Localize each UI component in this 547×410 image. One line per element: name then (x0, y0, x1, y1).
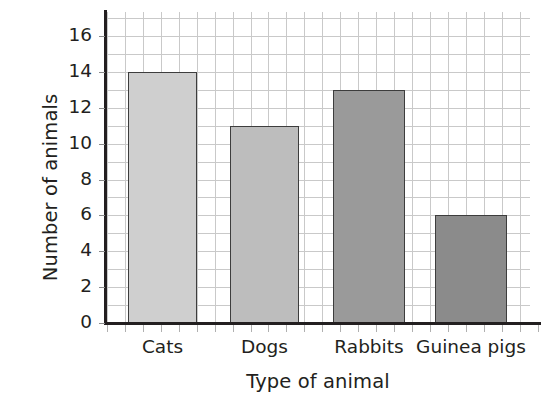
x-tick-mark (448, 325, 449, 332)
x-tick-mark (322, 325, 323, 332)
y-tick-mark (99, 180, 105, 181)
x-tick-mark (161, 325, 162, 332)
y-tick-label: 14 (52, 62, 92, 81)
x-tick-mark (412, 325, 413, 332)
x-tick-mark (268, 325, 269, 332)
x-tick-mark (251, 325, 252, 332)
y-tick-label: 6 (52, 205, 92, 224)
x-tick-mark (538, 325, 539, 332)
x-tick-mark (466, 325, 467, 332)
plot-area (107, 12, 530, 323)
x-tick-mark (233, 325, 234, 332)
y-axis-line (104, 10, 107, 325)
x-tick-mark (376, 325, 377, 332)
x-axis-title: Type of animal (108, 370, 528, 393)
x-tick-mark (143, 325, 144, 332)
y-tick-mark (99, 108, 105, 109)
y-tick-mark (99, 144, 105, 145)
y-tick-label: 16 (52, 26, 92, 45)
x-tick-mark (107, 325, 108, 332)
y-tick-mark (99, 215, 105, 216)
x-tick-mark (358, 325, 359, 332)
bar-rabbits (333, 90, 405, 323)
x-tick-mark (502, 325, 503, 332)
bar-dogs (230, 126, 299, 323)
x-tick-label-guinea-pigs: Guinea pigs (401, 336, 541, 357)
bars-group (107, 12, 530, 323)
x-tick-mark (430, 325, 431, 332)
x-tick-mark (215, 325, 216, 332)
x-tick-mark (520, 325, 521, 332)
y-tick-label: 2 (52, 277, 92, 296)
y-tick-mark (99, 251, 105, 252)
y-tick-mark (99, 323, 105, 324)
y-tick-label: 12 (52, 98, 92, 117)
y-tick-mark (99, 287, 105, 288)
bar-chart: Number of animals 0246810121416CatsDogsR… (0, 0, 547, 410)
x-tick-mark (286, 325, 287, 332)
x-tick-mark (179, 325, 180, 332)
y-tick-label: 0 (52, 313, 92, 332)
x-tick-mark (304, 325, 305, 332)
x-tick-mark (484, 325, 485, 332)
y-tick-label: 10 (52, 134, 92, 153)
y-tick-label: 8 (52, 170, 92, 189)
x-tick-mark (125, 325, 126, 332)
x-tick-mark (394, 325, 395, 332)
x-tick-mark (197, 325, 198, 332)
x-tick-mark (340, 325, 341, 332)
y-tick-label: 4 (52, 241, 92, 260)
bar-guinea-pigs (435, 215, 507, 323)
y-tick-mark (99, 36, 105, 37)
y-tick-mark (99, 72, 105, 73)
bar-cats (128, 72, 197, 323)
